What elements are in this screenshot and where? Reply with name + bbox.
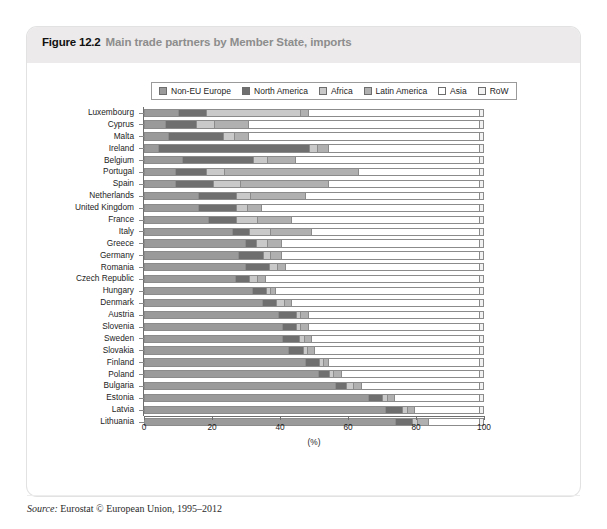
bar-segment-north-america xyxy=(305,359,319,365)
bar-segment-non-eu-europe xyxy=(145,157,182,163)
bar-segment-north-america xyxy=(198,193,236,199)
bar-segment-asia xyxy=(265,276,479,282)
bar-row-france xyxy=(144,214,484,226)
bar-segment-row xyxy=(479,205,483,211)
stacked-bar xyxy=(144,109,484,117)
bar-row-hungary xyxy=(144,285,484,297)
bar-segment-north-america xyxy=(335,383,346,389)
bar-segment-row xyxy=(479,217,483,223)
bar-segment-row xyxy=(479,276,483,282)
category-label-greece: Greece xyxy=(27,238,139,250)
bar-segment-latin-america xyxy=(284,300,292,306)
bar-segment-africa xyxy=(206,169,224,175)
bar-segment-non-eu-europe xyxy=(145,264,245,270)
bar-segment-africa xyxy=(263,252,271,258)
bar-segment-non-eu-europe xyxy=(145,240,245,246)
bar-row-slovenia xyxy=(144,321,484,333)
bar-segment-row xyxy=(479,264,483,270)
bar-segment-row xyxy=(479,300,483,306)
bar-row-germany xyxy=(144,250,484,262)
bar-segment-asia xyxy=(248,121,479,127)
legend-label-non-eu-europe: Non-EU Europe xyxy=(171,86,231,96)
bar-segment-asia xyxy=(308,312,479,318)
bar-segment-row xyxy=(479,407,483,413)
value-tick xyxy=(144,416,145,420)
bar-segment-latin-america xyxy=(317,145,328,151)
bar-segment-north-america xyxy=(282,336,300,342)
bar-segment-africa xyxy=(236,217,257,223)
bar-segment-asia xyxy=(358,169,479,175)
bar-segment-latin-america xyxy=(407,407,415,413)
bar-row-united-kingdom xyxy=(144,202,484,214)
bar-segment-non-eu-europe xyxy=(145,145,158,151)
bar-segment-africa xyxy=(256,240,267,246)
category-label-united-kingdom: United Kingdom xyxy=(27,202,139,214)
stacked-bar xyxy=(144,287,484,295)
bar-segment-africa xyxy=(346,383,354,389)
bar-segment-north-america xyxy=(175,181,213,187)
bar-segment-africa xyxy=(196,121,214,127)
legend-item-non-eu-europe: Non-EU Europe xyxy=(159,86,231,96)
figure-title: Figure 12.2Main trade partners by Member… xyxy=(42,36,352,48)
bar-segment-latin-america xyxy=(307,347,315,353)
source-value: Eurostat © European Union, 1995–2012 xyxy=(58,503,222,514)
category-label-lithuania: Lithuania xyxy=(27,416,139,428)
bar-segment-latin-america xyxy=(300,312,308,318)
bar-row-netherlands xyxy=(144,190,484,202)
bar-segment-north-america xyxy=(238,252,262,258)
value-axis-tick-labels: 020406080100 xyxy=(144,422,484,434)
bar-segment-non-eu-europe xyxy=(145,288,252,294)
bar-segment-row xyxy=(479,371,483,377)
bar-segment-row xyxy=(479,133,483,139)
bar-row-latvia xyxy=(144,404,484,416)
figure-number: Figure 12.2 xyxy=(42,36,101,48)
bar-row-portugal xyxy=(144,166,484,178)
value-tick-label-0: 0 xyxy=(142,422,147,432)
bar-segment-non-eu-europe xyxy=(145,359,305,365)
bar-segment-row xyxy=(479,288,483,294)
bar-segment-north-america xyxy=(368,395,382,401)
bar-segment-row xyxy=(479,336,483,342)
legend-label-asia: Asia xyxy=(450,86,467,96)
bar-segment-asia xyxy=(291,300,478,306)
bar-segment-north-america xyxy=(158,145,309,151)
bar-segment-non-eu-europe xyxy=(145,336,282,342)
bar-segment-latin-america xyxy=(300,324,308,330)
bar-segment-non-eu-europe xyxy=(145,276,235,282)
bar-segment-africa xyxy=(206,110,300,116)
bar-segment-north-america xyxy=(198,205,236,211)
category-label-malta: Malta xyxy=(27,131,139,143)
bar-segment-non-eu-europe xyxy=(145,324,282,330)
category-label-spain: Spain xyxy=(27,178,139,190)
bar-segment-latin-america xyxy=(234,133,248,139)
bar-segment-north-america xyxy=(385,407,403,413)
bar-segment-asia xyxy=(281,240,478,246)
bar-segment-latin-america xyxy=(270,252,281,258)
bar-row-ireland xyxy=(144,143,484,155)
bar-segment-row xyxy=(479,169,483,175)
bar-segment-latin-america xyxy=(224,169,358,175)
bar-segment-north-america xyxy=(262,300,276,306)
source-note: Source: Eurostat © European Union, 1995–… xyxy=(27,503,222,514)
category-label-czech-republic: Czech Republic xyxy=(27,273,139,285)
stacked-bar xyxy=(144,358,484,366)
bar-segment-africa xyxy=(253,157,267,163)
category-label-slovakia: Slovakia xyxy=(27,345,139,357)
category-label-france: France xyxy=(27,214,139,226)
bar-segment-asia xyxy=(285,264,479,270)
category-label-ireland: Ireland xyxy=(27,143,139,155)
bar-segment-asia xyxy=(328,145,479,151)
stacked-bar xyxy=(144,228,484,236)
category-label-estonia: Estonia xyxy=(27,392,139,404)
stacked-bar xyxy=(144,263,484,271)
bar-segment-row xyxy=(479,229,483,235)
category-label-portugal: Portugal xyxy=(27,166,139,178)
bar-segment-non-eu-europe xyxy=(145,217,208,223)
bar-segment-latin-america xyxy=(300,110,308,116)
bar-segment-non-eu-europe xyxy=(145,383,335,389)
stacked-bar xyxy=(144,144,484,152)
value-tick xyxy=(280,416,281,420)
bar-segment-row xyxy=(479,121,483,127)
bar-segment-non-eu-europe xyxy=(145,300,262,306)
bar-segment-latin-america xyxy=(387,395,395,401)
